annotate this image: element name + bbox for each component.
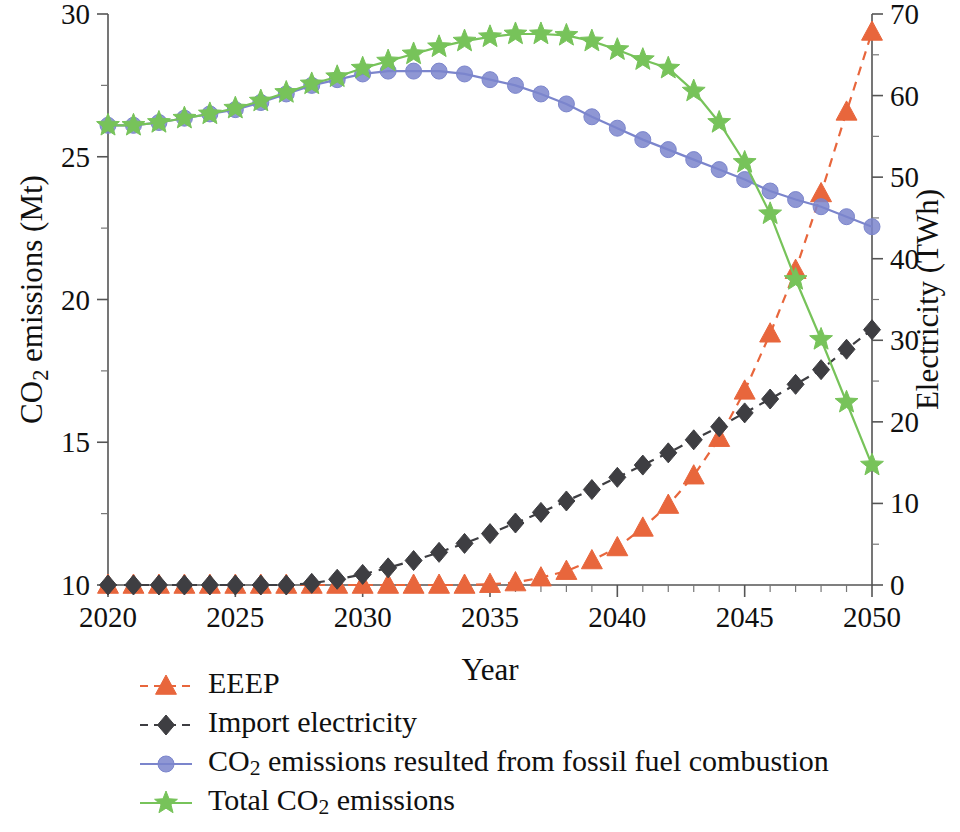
data-point <box>505 572 526 591</box>
data-point <box>507 513 524 533</box>
data-point <box>631 48 654 70</box>
chart-canvas: 1015202530010203040506070202020252030203… <box>0 0 960 832</box>
legend-label: CO2 emissions resulted from fossil fuel … <box>208 744 829 780</box>
series-triangle <box>98 21 883 593</box>
data-point <box>507 77 523 93</box>
y-axis-tick-label: 30 <box>61 0 90 30</box>
data-point <box>380 558 397 578</box>
data-point <box>685 430 702 450</box>
legend-swatch-marker <box>158 715 175 735</box>
data-point <box>584 109 600 125</box>
legend-swatch-marker <box>155 791 178 813</box>
data-point <box>454 574 475 593</box>
data-point <box>555 23 578 45</box>
data-point <box>711 162 727 178</box>
legend-label: EEEP <box>208 666 280 699</box>
chart-figure: 1015202530010203040506070202020252030203… <box>0 0 960 832</box>
data-point <box>787 374 804 394</box>
x-axis-title: Year <box>461 652 519 687</box>
data-point <box>759 202 782 224</box>
data-point <box>660 443 677 463</box>
data-point <box>835 390 858 412</box>
data-point <box>836 101 857 120</box>
data-point <box>558 96 574 112</box>
legend-swatch-marker <box>158 756 174 772</box>
data-point <box>558 491 575 511</box>
legend-item[interactable]: EEEP <box>140 666 280 699</box>
series-line <box>108 32 872 585</box>
data-point <box>682 79 705 101</box>
data-point <box>354 564 371 584</box>
data-point <box>734 380 755 399</box>
legend-label: Import electricity <box>208 705 417 738</box>
data-point <box>428 35 451 57</box>
data-point <box>504 22 527 44</box>
data-point <box>406 63 422 79</box>
data-point <box>581 550 602 569</box>
y2-axis-tick-label: 50 <box>890 161 919 193</box>
series-circle <box>100 63 880 235</box>
data-point <box>580 29 603 51</box>
data-point <box>533 86 549 102</box>
legend-item[interactable]: Import electricity <box>140 705 417 738</box>
data-point <box>556 560 577 579</box>
data-point <box>788 192 804 208</box>
x-axis-tick-label: 2035 <box>461 601 519 633</box>
data-point <box>683 465 704 484</box>
data-point <box>431 63 447 79</box>
data-point <box>607 536 628 555</box>
data-point <box>864 320 881 340</box>
data-point <box>479 25 502 47</box>
data-point <box>583 480 600 500</box>
data-point <box>660 142 676 158</box>
y2-axis-title: Electricity (TWh) <box>910 189 945 410</box>
data-point <box>635 132 651 148</box>
y-axis-tick-label: 20 <box>61 284 90 316</box>
data-point <box>813 360 830 380</box>
data-point <box>838 339 855 359</box>
data-point <box>609 120 625 136</box>
chart-legend: EEEPImport electricityCO2 emissions resu… <box>140 666 829 819</box>
legend-item[interactable]: CO2 emissions resulted from fossil fuel … <box>140 744 829 780</box>
data-series <box>97 21 884 595</box>
y2-axis-tick-label: 60 <box>890 80 919 112</box>
data-point <box>482 524 499 544</box>
y-axis-title: CO2 emissions (Mt) <box>14 175 53 424</box>
series-line <box>108 330 872 585</box>
data-point <box>733 150 756 172</box>
data-point <box>762 389 779 409</box>
data-point <box>606 38 629 60</box>
legend-label: Total CO2 emissions <box>208 783 455 819</box>
y-axis-tick-label: 10 <box>61 569 90 601</box>
data-point <box>457 66 473 82</box>
series-line <box>108 71 872 227</box>
legend-item[interactable]: Total CO2 emissions <box>140 783 455 819</box>
data-point <box>632 517 653 536</box>
data-point <box>453 29 476 51</box>
data-point <box>456 533 473 553</box>
data-point <box>784 268 807 290</box>
x-axis-tick-label: 2030 <box>334 601 392 633</box>
x-axis-tick-label: 2050 <box>843 601 901 633</box>
data-point <box>402 42 425 64</box>
x-axis-tick-label: 2040 <box>588 601 646 633</box>
data-point <box>609 467 626 487</box>
data-point <box>405 551 422 571</box>
y-axis-tick-label: 15 <box>61 426 90 458</box>
data-point <box>530 22 553 44</box>
series-line <box>108 34 872 465</box>
data-point <box>864 219 880 235</box>
y2-axis-tick-label: 0 <box>890 569 905 601</box>
data-point <box>862 21 883 40</box>
y2-axis-tick-label: 70 <box>890 0 919 30</box>
data-point <box>482 72 498 88</box>
data-point <box>431 542 448 562</box>
x-axis-tick-label: 2025 <box>206 601 264 633</box>
y-axis-tick-label: 25 <box>61 141 90 173</box>
data-point <box>813 199 829 215</box>
legend-swatch-marker <box>156 675 177 694</box>
x-axis-tick-label: 2045 <box>716 601 774 633</box>
axis-frame <box>108 14 872 585</box>
y2-axis-tick-label: 10 <box>890 487 919 519</box>
x-axis-tick-label: 2020 <box>79 601 137 633</box>
